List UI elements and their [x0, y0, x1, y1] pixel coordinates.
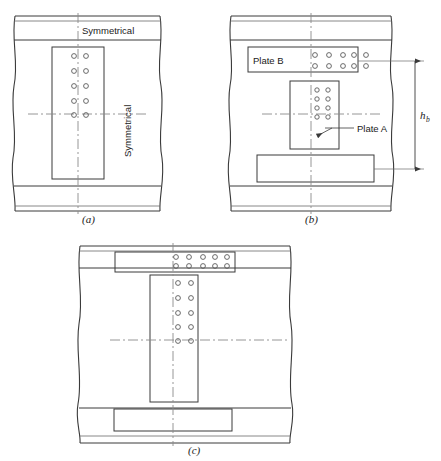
column-left-break-c [77, 246, 81, 443]
plate-a-bolts [315, 88, 330, 119]
plate-b-label: Plate B [253, 55, 284, 66]
plate-a-leader-arrow [317, 128, 332, 136]
plate-a-rect [290, 81, 339, 149]
column-left-break-a [12, 16, 16, 211]
column-right-break-c [289, 246, 293, 443]
flange-plate-bolts-c [174, 255, 230, 269]
symmetrical-top-label-a: Symmetrical [82, 25, 134, 36]
engineering-diagram: Symmetrical Symmetrical (a) [0, 0, 441, 461]
column-right-break-b [390, 16, 394, 211]
column-right-break-a [159, 16, 163, 211]
column-left-break-b [228, 16, 232, 211]
figure-container: Symmetrical Symmetrical (a) [0, 0, 441, 461]
symmetrical-vertical-label-a: Symmetrical [122, 105, 133, 157]
bottom-flange-plate-b [257, 155, 374, 182]
panel-b: Plate B Plate A h b (b) [228, 13, 430, 226]
panel-label-a: (a) [82, 213, 95, 226]
plate-a-label: Plate A [357, 123, 388, 134]
panel-label-b: (b) [305, 213, 318, 226]
panel-c: (c) [77, 243, 293, 457]
hb-dimension-subscript: b [426, 115, 430, 124]
panel-a: Symmetrical Symmetrical (a) [12, 13, 163, 226]
web-plate-bolts-c [176, 281, 194, 344]
plate-b-bolts [313, 53, 369, 69]
web-plate-bolts-a [72, 54, 89, 118]
panel-label-c: (c) [188, 444, 201, 457]
